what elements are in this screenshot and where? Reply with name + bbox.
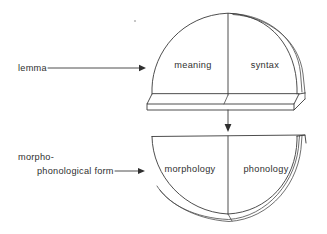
region-label-meaning: meaning — [174, 60, 211, 70]
label-lemma: lemma — [18, 63, 47, 73]
linguistic-representation-diagram: meaning syntax morphology phonology — [0, 0, 327, 234]
stray-speck — [134, 20, 136, 22]
dome-base-top-face — [147, 94, 299, 104]
form-arrow-head — [138, 168, 145, 174]
bowl-depth-arc-inner — [160, 136, 300, 220]
dome-depth-arc-inner — [233, 15, 305, 94]
label-form-line-2: phonological form — [37, 166, 114, 176]
bowl-outline — [152, 136, 297, 214]
vertical-arrow-head — [225, 124, 232, 132]
region-label-syntax: syntax — [251, 60, 279, 70]
lemma-pointer-arrow — [48, 65, 146, 71]
lemma-to-form-arrow — [225, 110, 232, 132]
form-pointer-arrow — [115, 168, 145, 174]
dome-base-front-face — [147, 104, 294, 110]
region-label-morphology: morphology — [164, 164, 215, 174]
diagram-canvas: meaning syntax morphology phonology — [0, 0, 327, 234]
dome-base-divider — [224, 95, 228, 104]
upper-node-dome: meaning syntax — [147, 13, 305, 110]
dome-outline — [152, 13, 297, 94]
region-label-phonology: phonology — [243, 164, 288, 174]
label-form-line-1: morpho- — [18, 152, 54, 162]
bowl-divider-depth — [228, 214, 232, 221]
lemma-arrow-head — [139, 65, 146, 71]
dome-base-right-edge-upper — [299, 93, 305, 94]
bowl-rim — [152, 135, 305, 137]
bowl-depth-arc-outer — [157, 136, 302, 222]
lower-node-bowl: morphology phonology — [152, 135, 306, 222]
